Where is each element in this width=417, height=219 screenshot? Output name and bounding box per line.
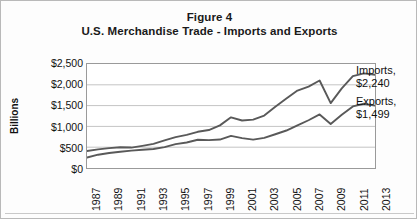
imports-end-label: Imports, $2,240 [356, 64, 396, 89]
y-tick-label: $500 [29, 143, 83, 153]
x-tick-label: 1987 [90, 171, 102, 211]
x-tick-label: 2007 [313, 171, 325, 211]
data-series-group [87, 73, 375, 157]
gridlines [87, 85, 375, 147]
x-tick-label: 1989 [112, 171, 124, 211]
x-tick-label: 1993 [157, 171, 169, 211]
y-tick-label: $1,000 [29, 122, 83, 132]
x-axis-tick-labels: 1987198919911993199519971999200120032005… [86, 169, 376, 219]
x-tick-label: 2013 [380, 171, 392, 211]
imports-value-text: $2,240 [356, 77, 396, 90]
x-tick-label: 1997 [202, 171, 214, 211]
plot-area [86, 63, 376, 169]
y-tick-label: $0 [29, 164, 83, 174]
exports-end-label: Exports, $1,499 [356, 95, 396, 120]
y-tick-label: $2,500 [29, 58, 83, 68]
figure-container: Figure 4 U.S. Merchandise Trade - Import… [0, 0, 417, 219]
x-tick-label: 1995 [179, 171, 191, 211]
bottom-divider [5, 213, 414, 214]
x-tick-label: 2011 [358, 171, 370, 211]
y-axis-tick-labels: $2,500$2,000$1,500$1,000$500$0 [27, 1, 83, 219]
chart-canvas [87, 64, 375, 168]
x-tick-label: 1999 [224, 171, 236, 211]
x-tick-label: 1991 [135, 171, 147, 211]
exports-value-text: $1,499 [356, 108, 396, 121]
y-tick-label: $1,500 [29, 100, 83, 110]
y-axis-title: Billions [9, 63, 25, 169]
series-line-exports [87, 104, 375, 158]
x-tick-label: 2009 [335, 171, 347, 211]
x-tick-label: 2003 [268, 171, 280, 211]
x-tick-label: 2005 [291, 171, 303, 211]
imports-label-text: Imports, [356, 64, 396, 76]
y-tick-label: $2,000 [29, 79, 83, 89]
exports-label-text: Exports, [356, 95, 396, 107]
x-tick-label: 2001 [246, 171, 258, 211]
